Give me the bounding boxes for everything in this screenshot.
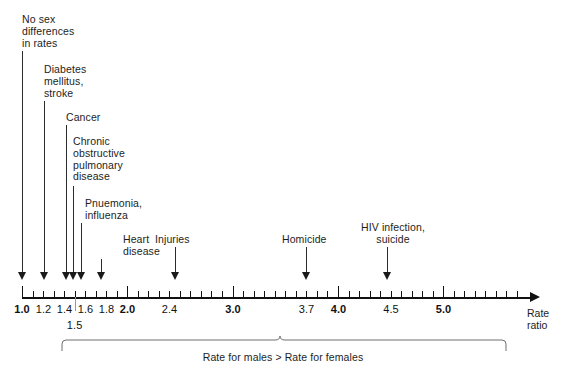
axis-tick-minor xyxy=(64,291,65,297)
axis-tick-minor xyxy=(485,291,486,297)
callout-cancer: Cancer xyxy=(66,112,146,124)
callout-no-sex-differences: No sex differences in rates xyxy=(22,14,114,49)
axis-tick-minor xyxy=(391,291,392,297)
axis-label-1-6: 1.6 xyxy=(78,303,94,315)
leader-line-heart xyxy=(101,259,102,273)
axis-tick-minor xyxy=(254,291,255,297)
axis-line xyxy=(22,297,532,299)
axis-tick-minor xyxy=(190,291,191,297)
axis-tick-minor xyxy=(422,291,423,297)
axis-tick-minor xyxy=(370,291,371,297)
axis-tick-minor xyxy=(327,291,328,297)
axis-tick-minor xyxy=(454,291,455,297)
axis-tick-minor xyxy=(275,291,276,297)
callout-homicide: Homicide xyxy=(282,234,352,246)
axis-label-2-4: 2.4 xyxy=(162,303,178,315)
leader-line-pneumonia xyxy=(81,223,82,273)
axis-label-1-0: 1.0 xyxy=(14,303,30,315)
axis-tick-minor xyxy=(243,291,244,297)
axis-tick-minor xyxy=(296,291,297,297)
axis-tick-1-0 xyxy=(22,286,23,297)
axis-tick-minor xyxy=(349,291,350,297)
axis-label-1-8: 1.8 xyxy=(99,303,115,315)
axis-tick-minor xyxy=(169,291,170,297)
arrowhead-pneumonia xyxy=(77,272,85,280)
callout-diabetes-stroke: Diabetes mellitus, stroke xyxy=(44,64,124,99)
arrowhead-heart xyxy=(97,272,105,280)
axis-tick-minor xyxy=(517,291,518,297)
axis-tick-1-5-divider xyxy=(75,297,76,311)
axis-title-rate-ratio: Rate ratio xyxy=(527,308,549,332)
axis-tick-minor xyxy=(33,291,34,297)
axis-label-5-0: 5.0 xyxy=(436,303,452,315)
leader-line-copd xyxy=(73,186,74,273)
arrowhead-diabetes xyxy=(40,272,48,280)
range-brace-label: Rate for males > Rate for females xyxy=(0,351,566,363)
axis-tick-minor xyxy=(180,291,181,297)
axis-label-1-2: 1.2 xyxy=(36,303,52,315)
axis-tick-3-0 xyxy=(233,286,234,297)
axis-tick-minor xyxy=(222,291,223,297)
axis-tick-minor xyxy=(117,291,118,297)
axis-tick-minor xyxy=(201,291,202,297)
arrowhead-no-sex-differences xyxy=(18,272,26,280)
arrowhead-copd xyxy=(69,272,77,280)
axis-tick-minor xyxy=(306,291,307,297)
leader-line-injuries xyxy=(175,247,176,273)
axis-tick-minor xyxy=(106,291,107,297)
axis-tick-minor xyxy=(412,291,413,297)
axis-tick-4-0 xyxy=(338,286,339,297)
axis-tick-minor xyxy=(54,291,55,297)
callout-hiv-suicide: HIV infection, suicide xyxy=(349,222,437,246)
axis-label-3-7: 3.7 xyxy=(299,303,315,315)
axis-tick-5-0 xyxy=(443,286,444,297)
axis-tick-minor xyxy=(148,291,149,297)
leader-line-hiv xyxy=(387,247,388,273)
axis-tick-minor xyxy=(359,291,360,297)
arrowhead-hiv xyxy=(383,272,391,280)
axis-arrowhead-icon xyxy=(530,292,540,302)
axis-tick-minor xyxy=(264,291,265,297)
arrowhead-homicide xyxy=(302,272,310,280)
axis-tick-minor xyxy=(380,291,381,297)
leader-line-no-sex-differences xyxy=(22,51,23,273)
axis-tick-minor xyxy=(211,291,212,297)
axis-tick-minor xyxy=(506,291,507,297)
axis-tick-minor xyxy=(401,291,402,297)
leader-line-diabetes xyxy=(44,101,45,273)
axis-tick-minor xyxy=(159,291,160,297)
axis-tick-minor xyxy=(317,291,318,297)
axis-label-1-4: 1.4 xyxy=(57,303,73,315)
axis-tick-minor xyxy=(43,291,44,297)
arrowhead-injuries xyxy=(171,272,179,280)
axis-label-2-0: 2.0 xyxy=(120,303,136,315)
axis-tick-minor xyxy=(464,291,465,297)
rate-ratio-figure: No sex differences in rates Diabetes mel… xyxy=(0,0,566,372)
axis-label-4-0: 4.0 xyxy=(331,303,347,315)
axis-tick-minor xyxy=(138,291,139,297)
axis-label-3-0: 3.0 xyxy=(225,303,241,315)
axis-tick-minor xyxy=(496,291,497,297)
axis-tick-2-0 xyxy=(127,286,128,297)
callout-pneumonia-influenza: Pnuemonia, influenza xyxy=(85,198,167,222)
leader-line-homicide xyxy=(306,247,307,273)
axis-tick-minor xyxy=(96,291,97,297)
leader-line-cancer xyxy=(66,125,67,273)
axis-label-4-5: 4.5 xyxy=(383,303,399,315)
axis-tick-minor xyxy=(85,291,86,297)
callout-copd: Chronic obstructive pulmonary disease xyxy=(73,136,153,183)
callout-injuries: Injuries xyxy=(155,234,225,246)
axis-tick-minor xyxy=(285,291,286,297)
axis-tick-minor xyxy=(433,291,434,297)
axis-tick-minor xyxy=(475,291,476,297)
